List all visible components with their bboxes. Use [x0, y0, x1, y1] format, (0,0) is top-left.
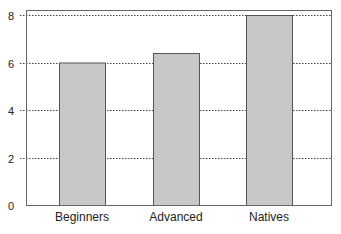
- bar-beginners: [60, 63, 106, 206]
- bar-chart: 02468 BeginnersAdvancedNatives: [0, 0, 341, 234]
- y-tick-label: 0: [8, 200, 14, 212]
- y-axis-ticks: 02468: [8, 10, 14, 212]
- y-tick-label: 4: [8, 105, 14, 117]
- bar-advanced: [154, 54, 200, 206]
- y-tick-label: 2: [8, 153, 14, 165]
- x-axis-labels: BeginnersAdvancedNatives: [55, 210, 289, 224]
- y-tick-label: 6: [8, 58, 14, 70]
- x-category-label: Advanced: [149, 210, 202, 224]
- bar-natives: [247, 16, 293, 206]
- x-category-label: Beginners: [55, 210, 109, 224]
- bars: [60, 16, 293, 206]
- y-tick-label: 8: [8, 10, 14, 22]
- x-category-label: Natives: [249, 210, 289, 224]
